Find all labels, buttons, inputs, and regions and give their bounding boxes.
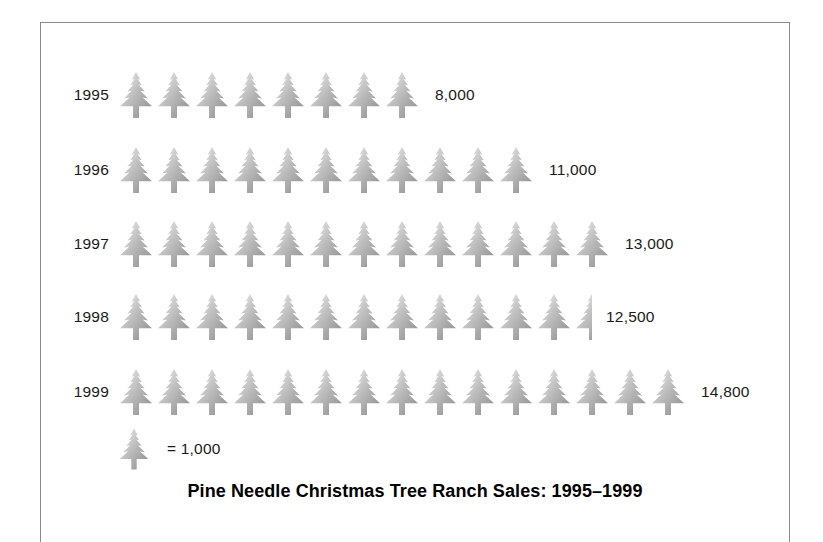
christmas-tree-icon [459,294,497,340]
christmas-tree-icon [155,221,193,267]
christmas-tree-icon [497,369,535,415]
christmas-tree-icon [649,369,687,415]
christmas-tree-icon [383,221,421,267]
christmas-tree-icon [345,221,383,267]
row-category-label: 1997 [41,235,117,253]
christmas-tree-icon [193,369,231,415]
chart-frame: 1995 8,000 1996 [40,22,790,542]
row-category-label: 1999 [41,383,117,401]
row-icon-group [117,221,611,267]
christmas-tree-icon [421,369,459,415]
christmas-tree-icon [269,369,307,415]
christmas-tree-icon [307,72,345,118]
christmas-tree-icon [269,72,307,118]
christmas-tree-icon [535,369,573,415]
row-value-label: 11,000 [535,161,596,179]
christmas-tree-icon [497,221,535,267]
row-category-label: 1996 [41,161,117,179]
christmas-tree-icon [497,147,535,193]
christmas-tree-icon [459,221,497,267]
row-category-label: 1998 [41,308,117,326]
christmas-tree-icon [193,221,231,267]
christmas-tree-icon [535,221,573,267]
christmas-tree-icon [345,72,383,118]
christmas-tree-icon [193,72,231,118]
christmas-tree-icon [307,369,345,415]
christmas-tree-icon [383,369,421,415]
christmas-tree-icon [345,369,383,415]
christmas-tree-icon [269,221,307,267]
pictograph-row: 1998 12,500 [41,287,655,347]
row-icon-group [117,369,687,415]
row-icon-group [117,294,592,340]
christmas-tree-icon [421,294,459,340]
christmas-tree-icon [231,147,269,193]
pictograph-plot-area: 1995 8,000 1996 [41,23,789,542]
christmas-tree-icon [307,147,345,193]
christmas-tree-icon [155,147,193,193]
christmas-tree-icon [611,369,649,415]
christmas-tree-icon [269,294,307,340]
pictograph-row: 1996 11,000 [41,140,596,200]
christmas-tree-icon [307,294,345,340]
christmas-tree-icon [383,147,421,193]
christmas-tree-icon [269,147,307,193]
chart-title: Pine Needle Christmas Tree Ranch Sales: … [41,481,789,502]
christmas-tree-icon [117,369,155,415]
row-icon-group [117,147,535,193]
christmas-tree-icon [421,147,459,193]
christmas-tree-icon [193,147,231,193]
christmas-tree-icon [117,294,155,340]
christmas-tree-icon [117,221,155,267]
pictograph-row: 1995 8,000 [41,65,475,125]
christmas-tree-icon [383,294,421,340]
christmas-tree-icon [193,294,231,340]
row-icon-group [117,72,421,118]
christmas-tree-icon [383,72,421,118]
chart-legend: = 1,000 [117,428,221,470]
legend-label: = 1,000 [151,440,221,458]
christmas-tree-icon [459,369,497,415]
row-value-label: 12,500 [592,308,655,326]
christmas-tree-icon [231,72,269,118]
christmas-tree-icon [497,294,535,340]
christmas-tree-icon [307,221,345,267]
christmas-tree-icon [155,72,193,118]
christmas-tree-icon [117,72,155,118]
christmas-tree-icon [117,428,151,470]
christmas-tree-icon [573,369,611,415]
row-value-label: 8,000 [421,86,475,104]
christmas-tree-icon [573,221,611,267]
christmas-tree-icon [535,294,573,340]
christmas-tree-icon [231,369,269,415]
christmas-tree-icon [459,147,497,193]
christmas-tree-half-icon [573,294,592,340]
christmas-tree-icon [155,294,193,340]
christmas-tree-icon [117,147,155,193]
christmas-tree-icon [345,294,383,340]
row-value-label: 14,800 [687,383,750,401]
row-category-label: 1995 [41,86,117,104]
christmas-tree-icon [155,369,193,415]
christmas-tree-icon [231,221,269,267]
row-value-label: 13,000 [611,235,674,253]
christmas-tree-icon [231,294,269,340]
pictograph-row: 1999 14,800 [41,362,750,422]
pictograph-row: 1997 13,000 [41,214,674,274]
christmas-tree-icon [421,221,459,267]
christmas-tree-icon [345,147,383,193]
